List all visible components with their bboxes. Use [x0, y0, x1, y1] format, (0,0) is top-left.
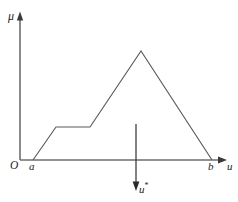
membership-function-curve: [33, 51, 212, 160]
origin-label: O: [10, 160, 18, 172]
y-axis-arrowhead-icon: [17, 12, 23, 21]
x-tick-label-b: b: [208, 161, 214, 172]
u-star-annotation-label: u*: [139, 182, 149, 195]
figure-canvas: [0, 0, 238, 202]
u-star-superscript: *: [145, 181, 149, 190]
fuzzy-membership-figure: μ O a b u u*: [0, 0, 238, 202]
y-axis-label: μ: [8, 10, 14, 22]
x-tick-label-a: a: [29, 161, 35, 172]
x-axis-label: u: [227, 161, 233, 172]
x-axis-arrowhead-icon: [218, 157, 227, 164]
